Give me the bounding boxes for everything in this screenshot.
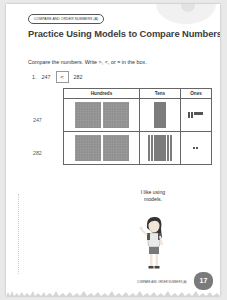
section-pill: COMPARE AND ORDER NUMBERS (A) xyxy=(28,14,104,24)
row-label-1: 247 xyxy=(33,117,42,123)
answer-box[interactable]: < xyxy=(56,71,69,83)
problem-number: 1. xyxy=(32,74,37,80)
ten-rod-icon xyxy=(163,102,166,128)
page-title: Practice Using Models to Compare Numbers xyxy=(28,28,220,39)
tens-cell xyxy=(140,132,181,165)
hundred-flat-icon xyxy=(75,135,101,161)
table-row xyxy=(64,99,212,132)
ones-cell xyxy=(181,132,212,165)
ten-rod-icon xyxy=(170,135,173,161)
one-cube-icon xyxy=(188,115,190,117)
one-cube-icon xyxy=(194,112,196,114)
footer-running-title: COMPARE AND ORDER NUMBERS (A) xyxy=(137,281,187,284)
header-hundreds: Hundreds xyxy=(64,89,140,99)
table-row xyxy=(64,132,212,165)
one-cube-icon xyxy=(191,115,193,117)
one-cube-icon xyxy=(188,112,190,114)
header-tens: Tens xyxy=(140,89,181,99)
one-cube-icon xyxy=(196,147,198,149)
left-value: 247 xyxy=(42,74,51,80)
hundred-flat-icon xyxy=(103,102,129,128)
hundreds-cell xyxy=(64,132,140,165)
tens-cell xyxy=(140,99,181,132)
right-value: 282 xyxy=(74,74,83,80)
problem-1: 1. 247 < 282 xyxy=(32,71,83,83)
instructions: Compare the numbers. Write >, <, or = in… xyxy=(28,59,147,65)
row-label-2: 282 xyxy=(33,150,42,156)
one-cube-icon xyxy=(200,112,202,114)
one-cube-icon xyxy=(191,112,193,114)
place-value-table: Hundreds Tens Ones xyxy=(63,88,212,165)
speech-bubble: I like using models. xyxy=(135,189,171,203)
hundred-flat-icon xyxy=(103,135,129,161)
decorative-dotted-line xyxy=(18,194,20,274)
one-cube-icon xyxy=(193,147,195,149)
hundred-flat-icon xyxy=(75,102,101,128)
header-ones: Ones xyxy=(181,89,212,99)
hundreds-cell xyxy=(64,99,140,132)
girl-illustration-icon xyxy=(138,214,168,272)
grass-border-icon xyxy=(6,288,220,296)
one-cube-icon xyxy=(197,112,199,114)
worksheet-page: COMPARE AND ORDER NUMBERS (A) Practice U… xyxy=(6,4,220,296)
ones-cell xyxy=(181,99,212,132)
